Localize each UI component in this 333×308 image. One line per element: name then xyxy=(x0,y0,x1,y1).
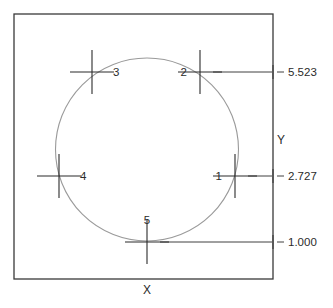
x-axis-label: X xyxy=(143,283,151,297)
drawing-canvas: 12345 5.5232.7271.000 X Y xyxy=(0,0,333,308)
dimension-1000: 1.000 xyxy=(273,235,317,249)
dimension-2727-value: 2.727 xyxy=(288,170,317,182)
drawing-border xyxy=(14,14,273,279)
dimension-5523: 5.523 xyxy=(273,65,317,79)
dimension-5523-value: 5.523 xyxy=(288,66,317,78)
point-2: 2 xyxy=(178,50,272,94)
point-1: 1 xyxy=(213,154,272,198)
point-4-label: 4 xyxy=(80,170,87,182)
point-2-label: 2 xyxy=(181,66,187,78)
point-3-label: 3 xyxy=(113,66,119,78)
dimension-2727: 2.727 xyxy=(273,169,317,183)
technical-drawing-svg: 12345 5.5232.7271.000 X Y xyxy=(0,0,333,308)
point-3: 3 xyxy=(70,50,119,94)
dimension-1000-value: 1.000 xyxy=(288,236,317,248)
point-markers-group: 12345 xyxy=(37,50,272,264)
y-axis-label: Y xyxy=(277,133,285,147)
point-5-label: 5 xyxy=(144,214,150,226)
point-1-label: 1 xyxy=(216,170,222,182)
point-5: 5 xyxy=(125,214,272,264)
dimensions-group: 5.5232.7271.000 xyxy=(273,65,317,249)
point-4: 4 xyxy=(37,154,87,198)
